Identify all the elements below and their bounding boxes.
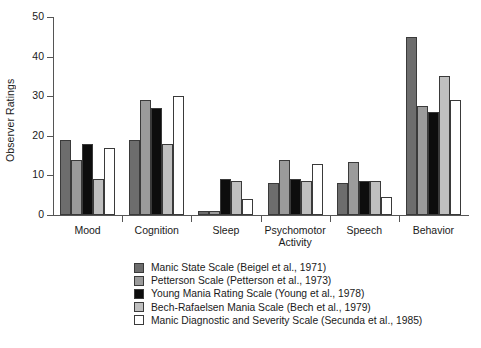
x-axis-label: Cognition <box>122 224 191 236</box>
bar-group <box>406 17 461 215</box>
bar <box>359 181 370 215</box>
legend-swatch <box>134 302 144 312</box>
bar <box>93 179 104 215</box>
legend-label: Young Mania Rating Scale (Young et al., … <box>151 288 364 299</box>
bar <box>198 211 209 215</box>
bar <box>268 183 279 215</box>
x-tick <box>399 216 400 222</box>
bar <box>417 106 428 215</box>
bar <box>162 144 173 215</box>
bar <box>348 162 359 215</box>
legend-swatch <box>134 289 144 299</box>
y-tick-label: 20 <box>32 129 44 141</box>
bar <box>279 160 290 215</box>
legend-swatch <box>134 263 144 273</box>
y-tick-label: 0 <box>38 208 44 220</box>
bar <box>220 179 231 215</box>
legend-item: Young Mania Rating Scale (Young et al., … <box>134 287 464 300</box>
legend-item: Manic State Scale (Beigel et al., 1971) <box>134 261 464 274</box>
bar <box>129 140 140 215</box>
y-axis-title: Observer Ratings <box>4 60 20 180</box>
bar <box>231 181 242 215</box>
legend-label: Manic State Scale (Beigel et al., 1971) <box>151 262 326 273</box>
x-axis-label: Behavior <box>399 224 468 236</box>
bar <box>104 148 115 215</box>
legend-label: Bech-Rafaelsen Mania Scale (Bech et al.,… <box>151 302 371 313</box>
chart-legend: Manic State Scale (Beigel et al., 1971)P… <box>134 261 464 327</box>
bar <box>290 179 301 215</box>
legend-item: Petterson Scale (Petterson et al., 1973) <box>134 274 464 287</box>
legend-label: Petterson Scale (Petterson et al., 1973) <box>151 275 331 286</box>
bar <box>428 112 439 215</box>
bar-group <box>268 17 323 215</box>
x-axis-label: Sleep <box>191 224 260 236</box>
bar <box>140 100 151 215</box>
y-tick-label: 30 <box>32 89 44 101</box>
bar <box>151 108 162 215</box>
bar-group <box>337 17 392 215</box>
x-tick <box>122 216 123 222</box>
legend-swatch <box>134 276 144 286</box>
bar-group <box>129 17 184 215</box>
x-axis-label: Psychomotor Activity <box>261 224 330 248</box>
y-tick-label: 10 <box>32 168 44 180</box>
bar <box>381 197 392 215</box>
legend-item: Bech-Rafaelsen Mania Scale (Bech et al.,… <box>134 301 464 314</box>
bar-group <box>60 17 115 215</box>
x-tick <box>261 216 262 222</box>
legend-swatch <box>134 315 144 325</box>
y-tick-label: 40 <box>32 50 44 62</box>
bar <box>209 211 220 215</box>
bar <box>370 181 381 215</box>
bar <box>71 160 82 215</box>
y-tick-0: 0 <box>47 215 53 216</box>
bar-chart-figure: Observer Ratings 01020304050 MoodCogniti… <box>0 0 481 348</box>
bar-group <box>198 17 253 215</box>
bar <box>82 144 93 215</box>
bar <box>406 37 417 215</box>
x-tick <box>191 216 192 222</box>
y-tick-label: 50 <box>32 10 44 22</box>
bar <box>439 76 450 215</box>
bar <box>242 199 253 215</box>
x-axis-label: Mood <box>53 224 122 236</box>
bar <box>312 164 323 215</box>
legend-item: Manic Diagnostic and Severity Scale (Sec… <box>134 314 464 327</box>
legend-label: Manic Diagnostic and Severity Scale (Sec… <box>151 315 422 326</box>
bar <box>173 96 184 215</box>
bar <box>337 183 348 215</box>
plot-area <box>53 17 468 215</box>
x-tick <box>330 216 331 222</box>
bar <box>301 181 312 215</box>
bar <box>450 100 461 215</box>
bar <box>60 140 71 215</box>
x-axis-label: Speech <box>330 224 399 236</box>
